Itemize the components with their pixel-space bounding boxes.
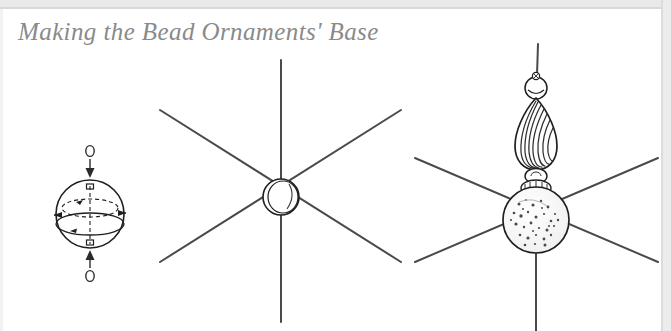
scan-edge-left — [0, 9, 3, 331]
bead-threading-diagram — [30, 140, 150, 285]
large-speckled-bead — [503, 187, 569, 253]
page-canvas: Making the Bead Ornaments' Base — [0, 0, 671, 331]
ring-bead — [263, 179, 299, 215]
page-title: Making the Bead Ornaments' Base — [18, 17, 379, 47]
dashed-equator-arrowhead — [76, 200, 83, 205]
arrow-down-head — [86, 168, 95, 178]
small-ring-bead — [525, 72, 547, 99]
scan-edge-top — [0, 0, 671, 9]
arrow-up-head — [86, 250, 95, 260]
wire-loop-bottom-icon — [86, 271, 94, 282]
six-arm-wire-star — [145, 48, 410, 328]
small-ring-bead-body — [525, 77, 547, 99]
teardrop-swirl-bead — [515, 98, 557, 170]
bead-tick-right-head — [118, 210, 126, 216]
beaded-star-assembly — [415, 30, 671, 331]
assembly-wire-vertical-upper — [537, 44, 538, 75]
equator-arrowhead-left — [70, 229, 77, 234]
wire-loop-top-icon — [86, 146, 94, 157]
bead-tick-left-head — [54, 212, 62, 218]
